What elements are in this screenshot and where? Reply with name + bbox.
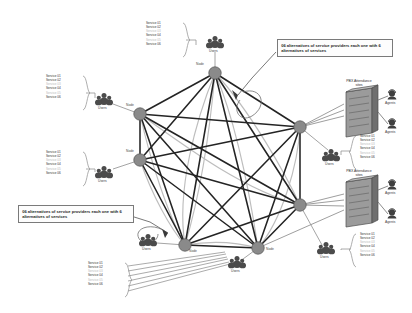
service-list-right-lower: Service 01 Service 02 Service 03 Service… bbox=[360, 232, 375, 257]
agent-icons bbox=[388, 90, 397, 219]
callout-bottom-left: 06 alternatives of service providers eac… bbox=[18, 205, 134, 223]
users-icon-center-right[interactable] bbox=[322, 149, 340, 161]
users-label-left-upper: Users bbox=[98, 106, 107, 110]
callout-top-right: 06 alternatives of service providers eac… bbox=[277, 39, 393, 57]
users-icon-top[interactable] bbox=[206, 36, 224, 48]
pbx-label-upper: PBX Attendance sites bbox=[336, 79, 382, 88]
node-top[interactable] bbox=[209, 67, 221, 79]
service-list-bottom: Service 01 Service 02 Service 03 Service… bbox=[88, 261, 103, 286]
agents-label-4: Agents bbox=[385, 220, 395, 224]
diagram-canvas: Service 01 Service 02 Service 03 Service… bbox=[0, 0, 412, 313]
service-item: Service 06 bbox=[88, 282, 103, 286]
callout-loops bbox=[138, 91, 261, 243]
node-label-bottom-left: Node bbox=[189, 249, 197, 253]
agent-icon-2[interactable] bbox=[388, 119, 397, 129]
node-label-top: Node bbox=[196, 62, 204, 66]
users-icon-bottom-right[interactable] bbox=[317, 242, 335, 254]
service-list-right-upper: Service 01 Service 02 Service 03 Service… bbox=[360, 134, 375, 159]
agents-label-3: Agents bbox=[385, 191, 395, 195]
service-list-left-lower: Service 01 Service 02 Service 03 Service… bbox=[46, 150, 61, 175]
users-label-bottom-mid: Users bbox=[142, 247, 151, 251]
agents-label-2: Agents bbox=[385, 130, 395, 134]
node-bottom-right[interactable] bbox=[252, 242, 264, 254]
users-label-top: Users bbox=[209, 49, 218, 53]
agent-icon-3[interactable] bbox=[388, 180, 397, 190]
node-right-lower[interactable] bbox=[294, 199, 306, 211]
service-item: Service 06 bbox=[360, 253, 375, 257]
users-icon-bottom-mid[interactable] bbox=[139, 234, 157, 246]
agents-label-1: Agents bbox=[385, 101, 395, 105]
service-list-left-upper: Service 01 Service 02 Service 03 Service… bbox=[46, 74, 61, 99]
users-icon-bottom-center[interactable] bbox=[228, 256, 246, 268]
service-item: Service 06 bbox=[46, 95, 61, 99]
mesh-links-light bbox=[140, 73, 300, 248]
node-left-upper[interactable] bbox=[134, 108, 146, 120]
users-label-bottom-ctr: Users bbox=[231, 269, 240, 273]
service-item: Service 06 bbox=[46, 171, 61, 175]
node-label-left-upper: Node bbox=[126, 103, 134, 107]
agent-connectors bbox=[378, 96, 388, 214]
agent-icon-4[interactable] bbox=[388, 209, 397, 219]
service-list-top: Service 01 Service 02 Service 03 Service… bbox=[146, 21, 161, 46]
users-label-center-right: Users bbox=[325, 162, 334, 166]
users-icon-left-upper[interactable] bbox=[95, 93, 113, 105]
node-label-bottom-right: Node bbox=[266, 247, 274, 251]
users-label-left-lower: Users bbox=[98, 179, 107, 183]
users-icon-left-lower[interactable] bbox=[95, 166, 113, 178]
user-connectors bbox=[113, 52, 328, 259]
agent-icon-1[interactable] bbox=[388, 90, 397, 100]
service-item: Service 06 bbox=[360, 155, 375, 159]
pbx-rack-lower[interactable] bbox=[346, 175, 378, 227]
pbx-label-lower: PBX Attendance sites bbox=[336, 169, 382, 178]
pbx-rack-upper[interactable] bbox=[346, 85, 378, 137]
service-item: Service 06 bbox=[146, 42, 161, 46]
node-left-lower[interactable] bbox=[134, 154, 146, 166]
node-right-upper[interactable] bbox=[294, 121, 306, 133]
users-label-bottom-right: Users bbox=[320, 255, 329, 259]
node-label-left-lower: Node bbox=[126, 149, 134, 153]
